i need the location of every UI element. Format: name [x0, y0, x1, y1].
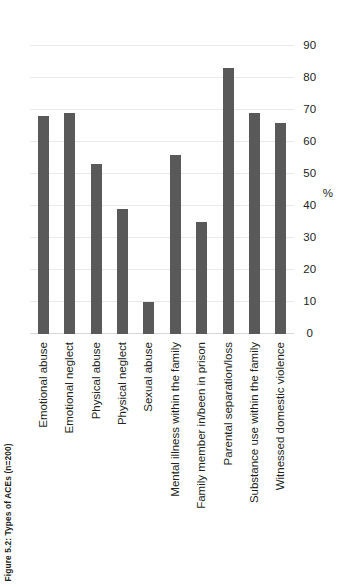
- category-axis-label: Witnessed domestic violence: [275, 342, 286, 490]
- bar: [275, 123, 286, 334]
- bar: [223, 68, 234, 334]
- category-axis-label: Emotional neglect: [64, 342, 75, 433]
- chart-figure: Emotional abuseEmotional neglectPhysical…: [24, 0, 344, 587]
- value-axis-tick-label: 90: [304, 29, 316, 63]
- plot-area: [30, 46, 294, 334]
- value-axis-tick-label: 40: [304, 189, 316, 223]
- bar: [249, 113, 260, 334]
- category-axis-label: Sexual abuse: [143, 342, 154, 412]
- value-axis-tick-label: 0: [304, 317, 316, 351]
- value-axis-tick-label: 70: [304, 93, 316, 127]
- bar: [91, 164, 102, 334]
- category-axis-label: Physical neglect: [117, 342, 128, 425]
- category-axis-label: Parental separation/loss: [223, 342, 234, 465]
- bar: [143, 302, 154, 334]
- value-axis-tick-label: 20: [304, 253, 316, 287]
- gridline: [30, 109, 294, 110]
- value-axis-tick-label: 50: [304, 157, 316, 191]
- value-axis-tick-label: 80: [304, 61, 316, 95]
- value-axis-tick-label: 10: [304, 285, 316, 319]
- bar: [196, 222, 207, 334]
- value-axis-tick-label: 60: [304, 125, 316, 159]
- figure-caption: Figure 5.2: Types of ACEs (n=200): [4, 443, 12, 581]
- gridline: [30, 77, 294, 78]
- bar: [64, 113, 75, 334]
- value-axis-title: %: [322, 189, 334, 199]
- bar: [38, 116, 49, 334]
- bar: [170, 155, 181, 334]
- category-axis-label: Physical abuse: [91, 342, 102, 419]
- bar: [117, 209, 128, 334]
- category-axis-label: Substance use within the family: [249, 342, 260, 503]
- category-axis-labels: Emotional abuseEmotional neglectPhysical…: [30, 342, 294, 587]
- figure-caption-label: Figure 5.2:: [3, 538, 13, 581]
- figure-caption-text: Types of ACEs (n=200): [3, 443, 13, 535]
- category-axis-label: Emotional abuse: [38, 342, 49, 428]
- category-axis-label: Family member in/been in prison: [196, 342, 207, 509]
- gridline: [30, 45, 294, 46]
- figure-caption-container: Figure 5.2: Types of ACEs (n=200): [0, 0, 24, 587]
- category-axis-label: Mental illness within the family: [170, 342, 181, 497]
- value-axis-tick-label: 30: [304, 221, 316, 255]
